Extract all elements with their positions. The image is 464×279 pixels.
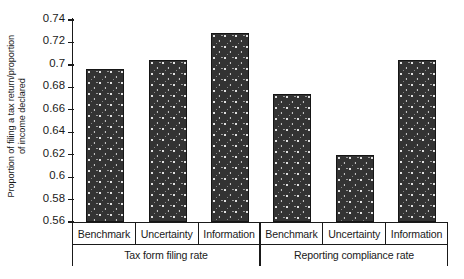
bar-chart: Proportion of filing a tax return/propor… (0, 0, 464, 279)
y-axis-tick-label: 0.64 (43, 124, 65, 136)
y-axis-tick-mark (68, 177, 74, 178)
x-axis-category-0: Benchmark (73, 223, 136, 245)
y-axis-tick-mark (68, 132, 74, 133)
y-axis-tick-mark (68, 154, 74, 155)
y-axis-tick-mark (68, 19, 74, 20)
y-axis-label: Proportion of filing a tax return/propor… (0, 0, 34, 232)
y-axis-tick-label: 0.66 (43, 102, 65, 114)
x-axis-category-1: Uncertainty (135, 223, 198, 245)
bar (398, 60, 436, 222)
x-axis-category-5: Information (386, 223, 448, 245)
bar (86, 69, 124, 222)
y-axis-tick-label: 0.74 (43, 12, 65, 24)
x-axis-category-4: Uncertainty (323, 223, 386, 245)
x-axis-group-0: Tax form filing rate (73, 244, 260, 266)
bar (273, 94, 311, 222)
y-axis-tick-label: 0.7 (49, 57, 65, 69)
y-axis-tick-mark (68, 199, 74, 200)
bar (211, 33, 249, 222)
x-axis-group-divider (260, 222, 262, 266)
x-axis-left-rule (72, 222, 73, 266)
y-axis-tick-mark (68, 87, 74, 88)
y-axis-tick-label: 0.58 (43, 192, 65, 204)
y-axis-tick-label: 0.6 (49, 169, 65, 181)
x-axis-category-2: Information (198, 223, 260, 245)
y-axis-label-line1: Proportion of filing a tax return/propor… (6, 35, 16, 198)
y-axis-tick-mark (68, 64, 74, 65)
y-axis-label-line2: of income declared (17, 35, 28, 198)
bar (336, 155, 374, 222)
y-axis-tick-label: 0.72 (43, 34, 65, 46)
x-axis-category-3: Benchmark (260, 223, 323, 245)
x-axis-group-1: Reporting compliance rate (260, 244, 448, 266)
y-axis-tick-mark (68, 42, 74, 43)
x-axis-right-rule (447, 222, 448, 266)
y-axis-tick-mark (68, 109, 74, 110)
plot-area (74, 20, 448, 222)
y-axis-tick-label: 0.62 (43, 147, 65, 159)
y-axis-tick-label: 0.56 (43, 214, 65, 226)
y-axis-tick-label: 0.68 (43, 79, 65, 91)
bar (149, 60, 187, 222)
